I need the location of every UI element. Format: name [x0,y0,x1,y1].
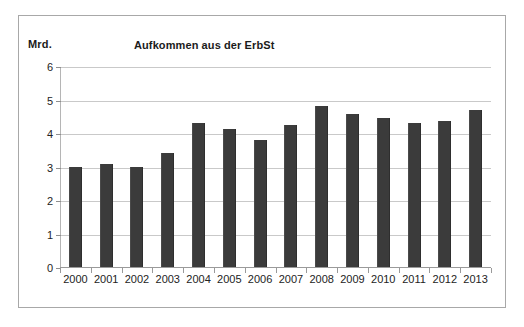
y-tick-mark [56,201,61,202]
y-tick-label: 6 [47,61,53,73]
x-tick-mark [399,268,400,273]
bar [408,123,421,267]
x-tick-label: 2000 [63,273,87,285]
x-tick-label: 2011 [402,273,426,285]
x-tick-label: 2013 [463,273,487,285]
y-tick-label: 3 [47,162,53,174]
y-tick-label: 2 [47,195,53,207]
bar [100,164,113,267]
x-tick-mark [214,268,215,273]
x-tick-mark [460,268,461,273]
bar [315,106,328,267]
x-tick-mark [152,268,153,273]
x-tick-mark [306,268,307,273]
x-tick-mark [491,268,492,273]
x-tick-label: 2005 [217,273,241,285]
x-tick-label: 2002 [125,273,149,285]
bar [223,129,236,267]
x-tick-mark [122,268,123,273]
x-tick-mark [245,268,246,273]
gridline [60,67,491,68]
x-tick-mark [337,268,338,273]
gridline [60,134,491,135]
y-tick-mark [56,134,61,135]
x-tick-mark [91,268,92,273]
gridline [60,201,491,202]
y-tick-mark [56,67,61,68]
gridline [60,168,491,169]
gridline [60,235,491,236]
x-tick-mark [429,268,430,273]
y-tick-label: 1 [47,229,53,241]
x-tick-label: 2008 [309,273,333,285]
x-tick-mark [183,268,184,273]
bar [346,114,359,267]
y-axis-unit-label: Mrd. [28,38,52,50]
x-tick-label: 2012 [433,273,457,285]
bar [254,140,267,267]
bar [161,153,174,267]
bar-chart: Mrd. Aufkommen aus der ErbSt 0123456 200… [19,16,505,307]
gridline [60,101,491,102]
y-tick-label: 5 [47,95,53,107]
bar [69,167,82,267]
y-tick-label: 0 [47,262,53,274]
bar [438,121,451,267]
x-tick-mark [60,268,61,273]
x-tick-label: 2004 [186,273,210,285]
chart-title: Aufkommen aus der ErbSt [134,39,274,51]
x-tick-mark [276,268,277,273]
y-tick-label: 4 [47,128,53,140]
chart-frame: Mrd. Aufkommen aus der ErbSt 0123456 200… [18,15,506,308]
x-tick-label: 2010 [371,273,395,285]
plot-area: 0123456 20002001200220032004200520062007… [60,67,491,268]
y-tick-mark [56,168,61,169]
x-tick-label: 2006 [248,273,272,285]
x-tick-label: 2003 [156,273,180,285]
bar [377,118,390,267]
y-tick-mark [56,235,61,236]
x-tick-mark [368,268,369,273]
y-tick-mark [56,101,61,102]
bar [130,167,143,268]
bar [469,110,482,267]
x-tick-label: 2001 [94,273,118,285]
x-tick-label: 2007 [279,273,303,285]
x-tick-label: 2009 [340,273,364,285]
bar [284,125,297,267]
bar [192,123,205,267]
